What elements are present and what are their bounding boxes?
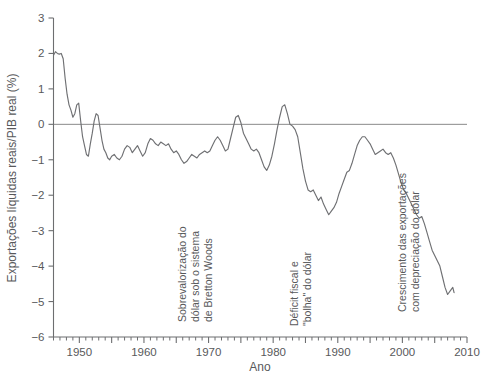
- x-tick-label: 1950: [67, 346, 93, 358]
- annotation-bretton-woods: Sobrevalorização dodólar sob o sistemade…: [176, 226, 214, 322]
- x-axis-title: Ano: [249, 360, 271, 374]
- y-tick-label: −3: [31, 225, 44, 237]
- annotation-line: Sobrevalorização do: [176, 226, 188, 322]
- y-tick-label: −5: [31, 296, 44, 308]
- y-tick-label: 0: [38, 118, 44, 130]
- net-exports-line-chart: 3210−1−2−3−4−5−6 19501960197019801990200…: [0, 0, 496, 379]
- annotation-line: Crescimento das exportações: [396, 173, 408, 312]
- y-tick-label: 1: [38, 83, 44, 95]
- x-tick-label: 1980: [260, 346, 286, 358]
- annotation-line: de Bretton Woods: [202, 238, 214, 322]
- annotation-line: com depreciação do dólar: [409, 191, 421, 312]
- x-tick-label: 1990: [325, 346, 351, 358]
- x-tick-label: 1960: [131, 346, 157, 358]
- annotation-deficit-fiscal: Déficit fiscal e"bolha" do dólar: [288, 251, 313, 326]
- y-tick-label: 2: [38, 47, 44, 59]
- x-tick-label: 2010: [454, 346, 480, 358]
- y-tick-label: −1: [31, 154, 44, 166]
- y-tick-label: −2: [31, 189, 44, 201]
- chart-container: 3210−1−2−3−4−5−6 19501960197019801990200…: [0, 0, 496, 379]
- annotation-line: Déficit fiscal e: [288, 261, 300, 326]
- x-tick-label: 2000: [390, 346, 416, 358]
- y-axis-title: Exportações líquidas reais/PIB real (%): [5, 74, 19, 283]
- y-tick-label: −6: [31, 331, 44, 343]
- annotation-line: "bolha" do dólar: [301, 251, 313, 326]
- y-tick-label: −4: [31, 260, 45, 272]
- annotation-line: dólar sob o sistema: [189, 231, 201, 322]
- x-tick-label: 1970: [196, 346, 222, 358]
- chart-background: [0, 0, 496, 379]
- annotation-crescimento-exportacoes: Crescimento das exportaçõescom depreciaç…: [396, 173, 421, 312]
- y-tick-label: 3: [38, 12, 44, 24]
